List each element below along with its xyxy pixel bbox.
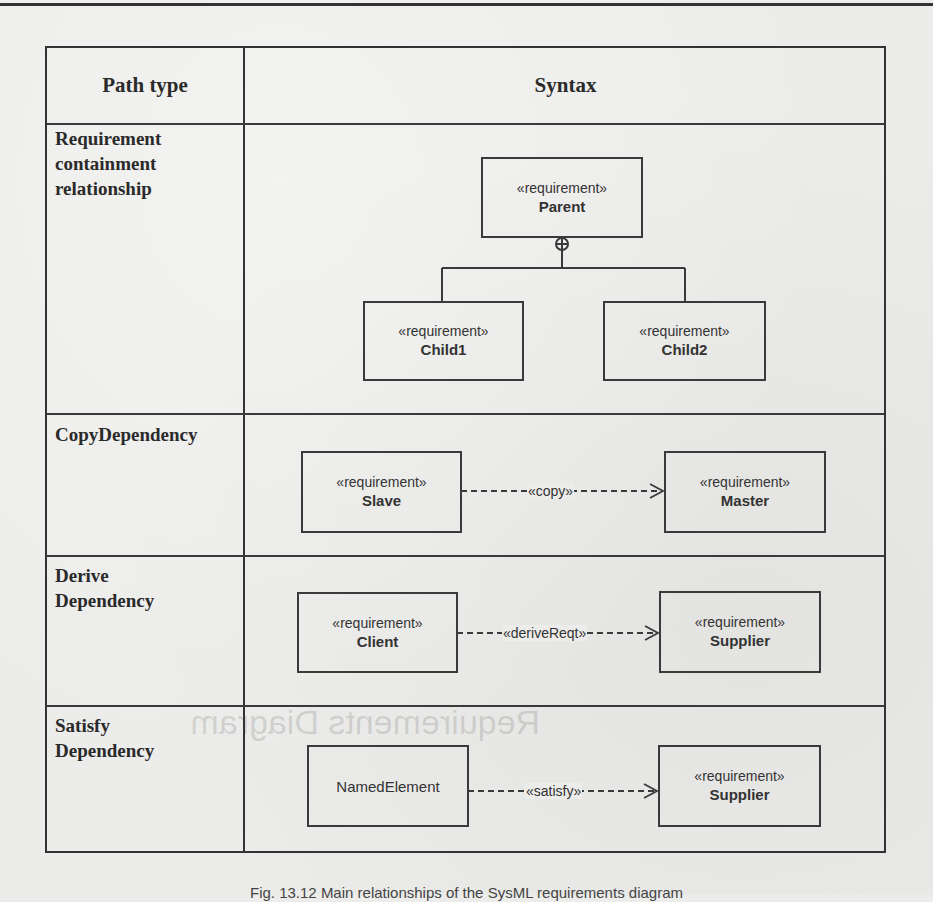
requirement-box-child1: «requirement» Child1	[363, 301, 524, 381]
element-name: Parent	[539, 197, 586, 217]
stereotype-label: «requirement»	[336, 473, 426, 491]
stereotype-label: «requirement»	[694, 767, 784, 785]
element-name: Client	[357, 632, 399, 652]
requirement-box-parent: «requirement» Parent	[481, 157, 643, 238]
element-name: Child2	[662, 340, 708, 360]
element-name: Supplier	[709, 785, 769, 805]
element-name: Slave	[362, 491, 401, 511]
stereotype-label: «requirement»	[695, 613, 785, 631]
requirement-box-slave: «requirement» Slave	[301, 451, 462, 533]
satisfy-dependency-label: «satisfy»	[525, 783, 582, 799]
element-name: Supplier	[710, 631, 770, 651]
derive-dependency-label: «deriveReqt»	[502, 625, 587, 641]
stereotype-label: «requirement»	[700, 473, 790, 491]
figure-caption: Fig. 13.12 Main relationships of the Sys…	[0, 884, 933, 902]
element-name: NamedElement	[336, 778, 439, 795]
requirement-box-child2: «requirement» Child2	[603, 301, 766, 381]
named-element-box: NamedElement	[307, 745, 469, 827]
stereotype-label: «requirement»	[332, 614, 422, 632]
containment-connector	[442, 238, 685, 301]
requirement-box-supplier-derive: «requirement» Supplier	[659, 591, 821, 673]
copy-dependency-label: «copy»	[527, 483, 574, 499]
stereotype-label: «requirement»	[517, 179, 607, 197]
requirement-box-master: «requirement» Master	[664, 451, 826, 533]
stereotype-label: «requirement»	[398, 322, 488, 340]
stereotype-label: «requirement»	[639, 322, 729, 340]
requirement-box-supplier-satisfy: «requirement» Supplier	[658, 745, 821, 827]
element-name: Master	[721, 491, 769, 511]
requirement-box-client: «requirement» Client	[297, 592, 458, 673]
element-name: Child1	[421, 340, 467, 360]
